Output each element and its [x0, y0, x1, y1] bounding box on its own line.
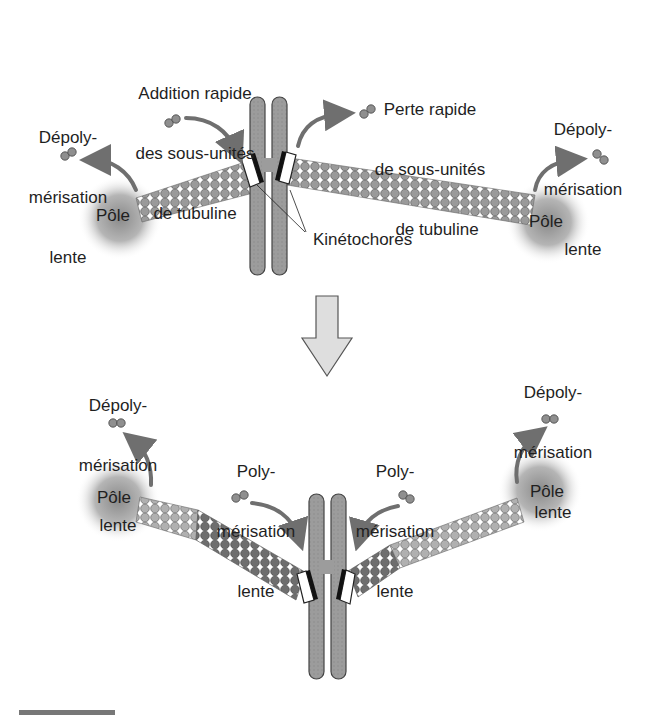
label-poly-bottom-right: Poly- mérisation lente [356, 422, 434, 622]
arrow-loss-top [298, 114, 340, 146]
down-arrow-icon [302, 296, 352, 376]
scale-bar [19, 710, 115, 715]
label-pole-bottom-left: Pôle [97, 488, 131, 508]
label-poly-bottom-left: Poly- mérisation lente [217, 422, 295, 622]
label-depoly-top-left: Dépoly- mérisation lente [29, 88, 107, 288]
label-depoly-top-right: Dépoly- mérisation lente [544, 80, 622, 280]
label-kinetochores: Kinétochores [313, 230, 412, 250]
dimer-top-loss [360, 105, 375, 118]
label-pole-bottom-right: Pôle [530, 482, 564, 502]
label-addition-rapide: Addition rapide des sous-unités de tubul… [135, 44, 254, 244]
label-pole-top-left: Pôle [96, 206, 130, 226]
label-depoly-bottom-left: Dépoly- mérisation lente [79, 356, 157, 556]
label-depoly-bottom-right: Dépoly- mérisation lente [514, 343, 592, 543]
label-pole-top-right: Pôle [529, 212, 563, 232]
chromosome-bottom [297, 494, 355, 679]
